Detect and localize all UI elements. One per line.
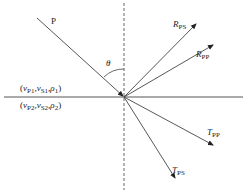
- rps-sub: PS: [179, 23, 187, 31]
- lower-medium-label: (vP2,vS2,ρ2): [20, 101, 61, 112]
- theta-arc: [104, 69, 124, 77]
- p-label-text: P: [51, 16, 56, 26]
- transmitted-ps-ray: [124, 97, 175, 178]
- s2-sub: S2: [41, 104, 48, 112]
- upper-medium-label: (vP1,vS1,ρ1): [20, 84, 61, 95]
- tpp-sub: PP: [212, 131, 220, 139]
- transmitted-pp-ray: [124, 97, 213, 145]
- reflected-ps-ray: [124, 24, 196, 97]
- theta-label: θ: [106, 59, 110, 68]
- rpp-sub: PP: [202, 53, 210, 61]
- rps-label: RPS: [173, 20, 186, 31]
- tps-sub: PS: [177, 169, 185, 177]
- paren-close: ): [58, 100, 61, 110]
- tpp-label: TPP: [207, 128, 220, 139]
- incident-p-label: P: [51, 17, 56, 26]
- s1-sub: S1: [41, 87, 48, 95]
- rpp-label: RPP: [196, 50, 209, 61]
- paren-close: ): [58, 83, 61, 93]
- tps-label: TPS: [172, 166, 185, 177]
- theta-text: θ: [106, 58, 110, 68]
- diagram-canvas: [0, 0, 249, 192]
